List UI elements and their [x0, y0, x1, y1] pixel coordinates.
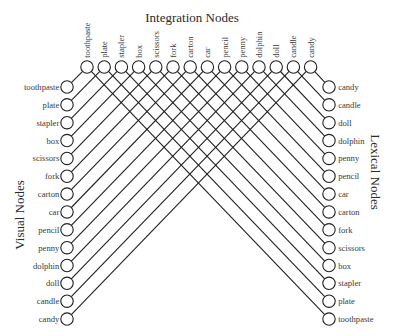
integration-node-box: box — [132, 44, 144, 73]
node-circle — [323, 295, 335, 307]
integration-node-label: stapler — [116, 35, 126, 58]
lexical-node-label: candle — [338, 100, 361, 110]
integration-node-carton: carton — [184, 36, 196, 74]
visual-node-toothpaste: toothpaste — [24, 81, 73, 93]
node-circle — [61, 224, 73, 236]
integration-node-penny: penny — [236, 36, 248, 73]
lexical-node-group: candycandledolldolphinpennypencilcarcart… — [323, 81, 374, 325]
node-circle — [253, 61, 265, 73]
edge-carton-visual — [71, 71, 186, 189]
edge-box-visual — [71, 71, 134, 136]
node-circle — [323, 259, 335, 271]
node-circle — [323, 188, 335, 200]
lexical-node-label: dolphin — [338, 136, 365, 146]
visual-node-penny: penny — [38, 241, 73, 253]
node-circle — [61, 117, 73, 129]
lexical-node-label: scissors — [338, 243, 365, 253]
integration-node-label: car — [202, 47, 212, 58]
lexical-nodes-title: Lexical Nodes — [368, 134, 383, 209]
integration-node-car: car — [201, 47, 213, 73]
integration-node-label: plate — [99, 41, 109, 58]
node-circle — [61, 170, 73, 182]
lexical-node-doll: doll — [323, 117, 352, 129]
node-circle — [218, 61, 230, 73]
lexical-node-label: penny — [338, 153, 360, 163]
visual-node-label: dolphin — [33, 261, 60, 271]
node-circle — [323, 241, 335, 253]
integration-node-label: carton — [185, 36, 195, 58]
node-circle — [323, 117, 335, 129]
visual-node-label: penny — [38, 243, 60, 253]
visual-node-label: plate — [43, 100, 60, 110]
node-circle — [184, 61, 196, 73]
lexical-node-carton: carton — [323, 206, 361, 218]
integration-nodes-title: Integration Nodes — [145, 10, 239, 25]
visual-node-scissors: scissors — [33, 152, 74, 164]
edge-toothpaste-lexical — [91, 71, 324, 314]
integration-node-dolphin: dolphin — [253, 31, 265, 73]
node-circle — [287, 61, 299, 73]
integration-node-doll: doll — [270, 44, 282, 73]
lexical-node-box: box — [323, 259, 352, 271]
node-circle — [61, 152, 73, 164]
lexical-node-label: stapler — [338, 278, 361, 288]
node-circle — [323, 313, 335, 325]
node-circle — [270, 61, 282, 73]
lexical-node-label: box — [338, 261, 352, 271]
edge-candy-lexical — [315, 72, 325, 83]
edge-carton-lexical — [194, 71, 324, 207]
visual-node-label: candle — [37, 296, 60, 306]
integration-node-plate: plate — [98, 41, 110, 73]
integration-node-pencil: pencil — [218, 36, 230, 73]
lexical-node-label: car — [338, 189, 349, 199]
node-circle — [98, 61, 110, 73]
integration-node-label: scissors — [151, 30, 161, 57]
lexical-node-penny: penny — [323, 152, 360, 164]
visual-node-label: candy — [39, 314, 60, 324]
edge-stapler-visual — [71, 71, 117, 118]
edge-scissors-visual — [71, 71, 151, 154]
edge-candy-visual — [71, 71, 306, 314]
integration-node-label: toothpaste — [82, 22, 92, 58]
integration-node-candy: candy — [304, 37, 316, 74]
lexical-node-candy: candy — [323, 81, 360, 93]
integration-node-label: dolphin — [254, 31, 264, 58]
integration-node-scissors: scissors — [150, 30, 162, 73]
visual-node-candy: candy — [39, 313, 73, 325]
node-circle — [323, 277, 335, 289]
node-circle — [323, 81, 335, 93]
visual-node-pencil: pencil — [38, 224, 73, 236]
node-circle — [201, 61, 213, 73]
connection-lines — [71, 71, 324, 314]
lexical-node-dolphin: dolphin — [323, 134, 365, 146]
lexical-node-plate: plate — [323, 295, 355, 307]
node-circle — [323, 152, 335, 164]
node-circle — [61, 259, 73, 271]
lexical-node-scissors: scissors — [323, 241, 366, 253]
node-circle — [167, 61, 179, 73]
node-circle — [61, 241, 73, 253]
visual-node-box: box — [46, 134, 73, 146]
node-circle — [323, 224, 335, 236]
node-circle — [150, 61, 162, 73]
visual-node-label: stapler — [36, 118, 59, 128]
visual-node-label: carton — [38, 189, 60, 199]
visual-node-label: fork — [45, 171, 60, 181]
visual-node-dolphin: dolphin — [33, 259, 73, 271]
edge-plate-visual — [71, 71, 100, 100]
node-circle — [61, 188, 73, 200]
edge-candle-visual — [71, 71, 289, 296]
integration-node-label: doll — [271, 44, 281, 58]
lexical-node-candle: candle — [323, 99, 361, 111]
node-circle — [61, 277, 73, 289]
lexical-node-toothpaste: toothpaste — [323, 313, 374, 325]
integration-diagram: Integration Nodes Visual Nodes Lexical N… — [0, 0, 395, 336]
integration-node-label: pencil — [220, 36, 230, 58]
edge-dolphin-lexical — [263, 71, 324, 136]
visual-node-group: toothpasteplatestaplerboxscissorsforkcar… — [24, 81, 73, 325]
lexical-node-label: carton — [338, 207, 360, 217]
node-circle — [61, 134, 73, 146]
lexical-node-car: car — [323, 188, 349, 200]
visual-node-label: scissors — [33, 153, 60, 163]
visual-node-carton: carton — [38, 188, 73, 200]
